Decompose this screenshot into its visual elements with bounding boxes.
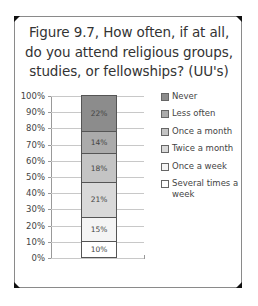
data-label: 10% xyxy=(91,245,108,254)
bar-segment: 21% xyxy=(81,182,117,217)
legend-label: Several times a week xyxy=(172,178,241,200)
y-tick-label: 50% xyxy=(15,172,45,182)
legend: NeverLess oftenOnce a monthTwice a month… xyxy=(161,91,241,206)
legend-item: Never xyxy=(161,91,241,102)
y-tick-label: 70% xyxy=(15,140,45,150)
y-tick-mark xyxy=(48,112,51,113)
legend-label: Once a week xyxy=(172,161,227,172)
data-label: 21% xyxy=(91,195,108,204)
y-tick-mark xyxy=(48,161,51,162)
data-label: 22% xyxy=(91,109,108,118)
legend-item: Twice a month xyxy=(161,143,241,154)
legend-label: Never xyxy=(172,91,197,102)
y-tick-mark xyxy=(48,177,51,178)
stacked-bar: 10%15%21%18%14%22% xyxy=(81,96,117,258)
bar-segment: 22% xyxy=(81,95,117,132)
y-tick-mark xyxy=(48,209,51,210)
y-tick-mark xyxy=(48,128,51,129)
legend-item: Several times a week xyxy=(161,178,241,200)
data-label: 15% xyxy=(91,225,108,234)
y-tick-label: 60% xyxy=(15,156,45,166)
y-tick-label: 0% xyxy=(15,253,45,263)
y-tick-label: 30% xyxy=(15,204,45,214)
legend-swatch-icon xyxy=(161,93,169,101)
bar-segment: 14% xyxy=(81,131,117,155)
y-tick-label: 100% xyxy=(15,91,45,101)
y-tick-mark xyxy=(48,96,51,97)
legend-label: Once a month xyxy=(172,126,232,137)
legend-item: Once a week xyxy=(161,161,241,172)
legend-label: Twice a month xyxy=(172,143,233,154)
data-label: 18% xyxy=(91,164,108,173)
chart-frame: Figure 9.7, How often, if at all, do you… xyxy=(14,16,242,288)
bar-segment: 18% xyxy=(81,153,117,183)
legend-swatch-icon xyxy=(161,180,169,188)
y-tick-label: 90% xyxy=(15,107,45,117)
y-tick-mark xyxy=(48,258,51,259)
legend-swatch-icon xyxy=(161,163,169,171)
legend-item: Once a month xyxy=(161,126,241,137)
y-tick-mark xyxy=(48,226,51,227)
legend-swatch-icon xyxy=(161,145,169,153)
y-tick-label: 10% xyxy=(15,237,45,247)
legend-label: Less often xyxy=(172,108,215,119)
legend-item: Less often xyxy=(161,108,241,119)
y-tick-label: 80% xyxy=(15,123,45,133)
legend-swatch-icon xyxy=(161,128,169,136)
y-tick-mark xyxy=(48,193,51,194)
bar-segment: 10% xyxy=(81,241,117,258)
legend-swatch-icon xyxy=(161,110,169,118)
y-tick-label: 20% xyxy=(15,221,45,231)
data-label: 14% xyxy=(91,138,108,147)
x-axis-tick xyxy=(144,255,145,259)
y-tick-mark xyxy=(48,242,51,243)
y-tick-label: 40% xyxy=(15,188,45,198)
bar-segment: 15% xyxy=(81,217,117,242)
y-tick-mark xyxy=(48,145,51,146)
gridline xyxy=(51,258,144,259)
